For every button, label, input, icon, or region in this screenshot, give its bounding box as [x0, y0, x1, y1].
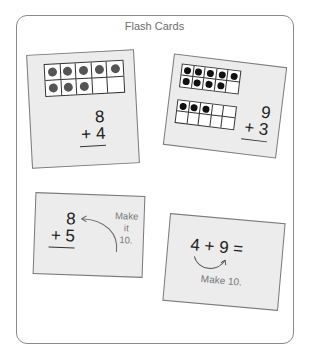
addition-problem: 8 + 5	[49, 210, 76, 249]
ten-frame	[44, 60, 126, 97]
flash-card-8-plus-4: 8 + 4	[26, 49, 140, 168]
counter-dot-icon	[48, 83, 57, 92]
counter-dot-icon	[183, 66, 191, 74]
flash-card-9-plus-3: 9 + 3	[163, 53, 287, 158]
flash-card-8-plus-5: 8 + 5 Make it 10.	[33, 192, 146, 278]
counter-dot-icon	[218, 70, 226, 78]
ten-frame-cell	[76, 62, 92, 78]
make-ten-hint: Make it 10.	[111, 210, 142, 247]
ten-frame-cell	[91, 62, 107, 78]
arc-arrow-icon	[190, 254, 231, 273]
counter-dot-icon	[64, 82, 73, 91]
make-ten-hint: Make 10.	[185, 272, 258, 290]
counter-dot-icon	[179, 102, 187, 110]
counter-dot-icon	[206, 69, 214, 77]
counter-dot-icon	[110, 64, 119, 73]
ten-frame-cell	[45, 64, 61, 80]
ten-frame-cell	[92, 77, 108, 93]
flash-card-4-plus-9: 4 + 9 = Make 10.	[162, 213, 285, 311]
counter-dot-icon	[79, 65, 88, 74]
addition-problem: 9 + 3	[241, 101, 271, 142]
ten-frame-cell	[226, 81, 239, 93]
counter-dot-icon	[182, 78, 190, 86]
counter-dot-icon	[94, 65, 103, 74]
sum-line	[49, 247, 75, 249]
ten-frame-cell	[108, 76, 124, 92]
counter-dot-icon	[48, 67, 57, 76]
counter-dot-icon	[80, 81, 89, 90]
counter-dot-icon	[230, 72, 238, 80]
ten-frame-top	[179, 63, 241, 94]
problem-bottom-addend: + 3	[242, 118, 270, 138]
counter-dot-icon	[202, 105, 210, 113]
ten-frame-cell	[77, 78, 93, 94]
ten-frame-cell	[222, 117, 235, 129]
counter-dot-icon	[191, 103, 199, 111]
counter-dot-icon	[205, 80, 213, 88]
counter-dot-icon	[63, 66, 72, 75]
ten-frame-cell	[45, 80, 61, 96]
ten-frame-cell	[107, 61, 123, 77]
counter-dot-icon	[194, 79, 202, 87]
addition-problem: 8 + 4	[78, 108, 106, 147]
problem-bottom-addend: + 5	[49, 227, 76, 245]
ten-frame-bottom	[175, 99, 237, 130]
page-title: Flash Cards	[0, 20, 309, 32]
problem-bottom-addend: + 4	[79, 125, 106, 143]
counter-dot-icon	[195, 68, 203, 76]
counter-dot-icon	[217, 82, 225, 90]
sum-line	[80, 145, 106, 147]
ten-frame-cell	[60, 63, 76, 79]
ten-frame-cell	[61, 79, 77, 95]
